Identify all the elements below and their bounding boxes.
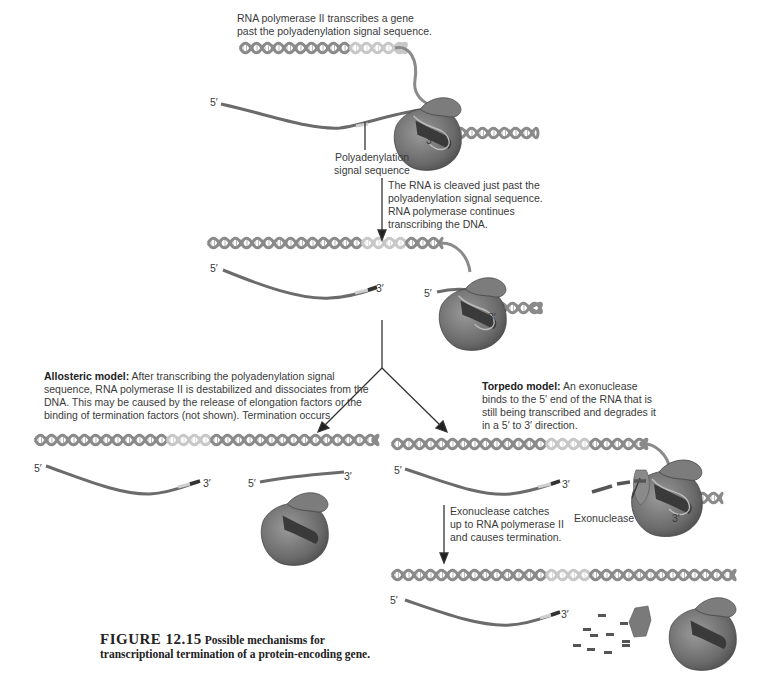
torpedo-step2-text: Exonuclease catches up to RNA polymerase… [450, 505, 590, 544]
five-prime-label: 5′ [390, 594, 398, 606]
dna-helix [392, 570, 735, 580]
exonuclease-released [629, 606, 651, 637]
rna-signal-segment [538, 484, 551, 487]
rna-cleaved-end [551, 612, 560, 615]
torpedo-title: Torpedo model: [482, 380, 561, 392]
rna-body [405, 600, 558, 625]
rna-fragment [606, 633, 614, 636]
rna-fragments [573, 614, 630, 654]
rna-fragment [620, 622, 628, 625]
dna-helix [208, 238, 442, 248]
rna-body [223, 270, 376, 298]
exonuclease-label: Exonuclease [574, 512, 634, 524]
three-prime-label: 3′ [203, 477, 211, 489]
rna-fragment [583, 628, 591, 631]
allosteric-model-text: Allosteric model: After transcribing the… [44, 370, 369, 422]
dna-helix [392, 439, 647, 449]
dna-strand-bend [440, 243, 470, 272]
rna-body [221, 104, 420, 128]
polyadenylation-label: Polyadenylation signal sequence [327, 151, 417, 177]
three-prime-label: 3′ [562, 478, 570, 490]
rna-fragment [598, 614, 606, 617]
rna-strand [46, 466, 200, 494]
rna-strand [260, 472, 344, 482]
rna-strand [223, 270, 377, 298]
rna-fragment [590, 634, 598, 637]
dna-helix [35, 435, 378, 445]
rna-body [405, 469, 558, 494]
dna-helix [455, 128, 538, 138]
rna-fragment [622, 644, 630, 647]
arrowhead-torpedo-step2 [440, 553, 448, 563]
rna-body [260, 472, 344, 482]
figure-caption: FIGURE 12.15 Possible mechanisms for tra… [100, 632, 400, 661]
rna-polymerase-ii [261, 493, 328, 566]
rna-body [46, 466, 198, 494]
step2-text: The RNA is cleaved just past the polyade… [388, 179, 618, 231]
dna-helices [35, 43, 735, 580]
polymerase-body [261, 503, 328, 565]
polymerase-body [669, 608, 736, 670]
three-prime-label: 3′ [561, 608, 569, 620]
arrow-to-torpedo [382, 368, 440, 425]
three-prime-label: 3′ [672, 512, 680, 524]
rna-cleaved-end [551, 481, 560, 484]
rna-fragment [622, 640, 630, 643]
three-prime-label: 3′ [426, 134, 434, 146]
step1-text: RNA polymerase II transcribes a gene pas… [237, 12, 497, 38]
five-prime-label: 5′ [34, 462, 42, 474]
polymerase-body [439, 288, 506, 350]
diagram-canvas [0, 0, 767, 700]
five-prime-label: 5′ [424, 287, 432, 299]
rna-strand [405, 469, 560, 494]
rna-fragment [604, 651, 612, 654]
rna-strand [405, 600, 560, 625]
torpedo-model-text: Torpedo model: An exonuclease binds to t… [482, 380, 657, 432]
rna-fragment [587, 648, 595, 651]
five-prime-label: 5′ [210, 96, 218, 108]
dna-strand-bend [395, 48, 428, 104]
rna-signal-segment [356, 124, 368, 126]
five-prime-label: 5′ [394, 464, 402, 476]
five-prime-label: 5′ [248, 477, 256, 489]
figure-number: FIGURE 12.15 [100, 631, 202, 647]
rna-fragment [573, 644, 581, 647]
three-prime-label: 3′ [344, 470, 352, 482]
five-prime-label: 5′ [210, 262, 218, 274]
dna-helix [240, 43, 406, 53]
rna-signal-segment [540, 615, 551, 618]
three-prime-label: 3′ [376, 282, 384, 294]
rna-cleaved-end [190, 481, 200, 484]
rna-polymerase-ii [669, 598, 736, 671]
allosteric-title: Allosteric model: [44, 370, 129, 382]
three-prime-label: 3′ [488, 311, 496, 323]
rna-strand [221, 104, 420, 128]
